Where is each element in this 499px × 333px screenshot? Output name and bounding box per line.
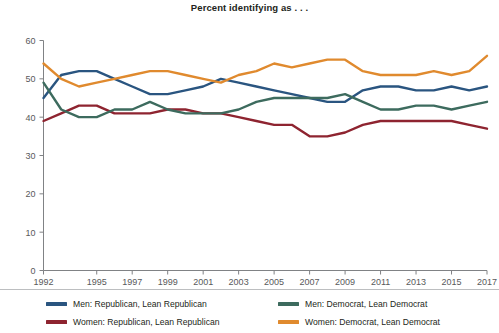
svg-text:20: 20 bbox=[25, 189, 35, 199]
line-chart-plot: 0102030405060199219951997199920012003200… bbox=[0, 0, 499, 290]
svg-text:2015: 2015 bbox=[442, 277, 462, 287]
svg-text:1992: 1992 bbox=[33, 277, 53, 287]
legend-item-men-republican: Men: Republican, Lean Republican bbox=[46, 300, 278, 309]
legend-item-label: Women: Republican, Lean Republican bbox=[73, 318, 220, 327]
svg-text:1997: 1997 bbox=[122, 277, 142, 287]
legend-item-men-democrat: Men: Democrat, Lean Democrat bbox=[278, 300, 486, 309]
svg-text:1999: 1999 bbox=[158, 277, 178, 287]
svg-text:60: 60 bbox=[25, 36, 35, 46]
svg-text:2013: 2013 bbox=[406, 277, 426, 287]
svg-text:10: 10 bbox=[25, 228, 35, 238]
svg-text:2001: 2001 bbox=[193, 277, 213, 287]
svg-text:2009: 2009 bbox=[335, 277, 355, 287]
legend-divider bbox=[0, 289, 499, 290]
legend-item-women-democrat: Women: Democrat, Lean Democrat bbox=[278, 318, 486, 327]
legend-item-label: Men: Republican, Lean Republican bbox=[73, 300, 207, 309]
legend-swatch-icon bbox=[278, 302, 299, 306]
legend-item-label: Women: Democrat, Lean Democrat bbox=[305, 318, 440, 327]
svg-text:2017: 2017 bbox=[477, 277, 497, 287]
svg-text:1995: 1995 bbox=[87, 277, 107, 287]
svg-text:40: 40 bbox=[25, 113, 35, 123]
legend-item-women-republican: Women: Republican, Lean Republican bbox=[46, 318, 278, 327]
svg-text:2003: 2003 bbox=[229, 277, 249, 287]
legend-swatch-icon bbox=[46, 320, 67, 324]
svg-text:2011: 2011 bbox=[371, 277, 390, 287]
legend-swatch-icon bbox=[278, 320, 299, 324]
legend-item-label: Men: Democrat, Lean Democrat bbox=[305, 300, 427, 309]
svg-text:50: 50 bbox=[25, 74, 35, 84]
chart-figure: Percent identifying as . . . 01020304050… bbox=[0, 0, 499, 333]
svg-text:2005: 2005 bbox=[264, 277, 284, 287]
svg-text:0: 0 bbox=[30, 266, 35, 276]
legend-swatch-icon bbox=[46, 302, 67, 306]
svg-text:2007: 2007 bbox=[300, 277, 320, 287]
chart-legend: Men: Republican, Lean Republican Men: De… bbox=[0, 289, 499, 333]
svg-text:30: 30 bbox=[25, 151, 35, 161]
